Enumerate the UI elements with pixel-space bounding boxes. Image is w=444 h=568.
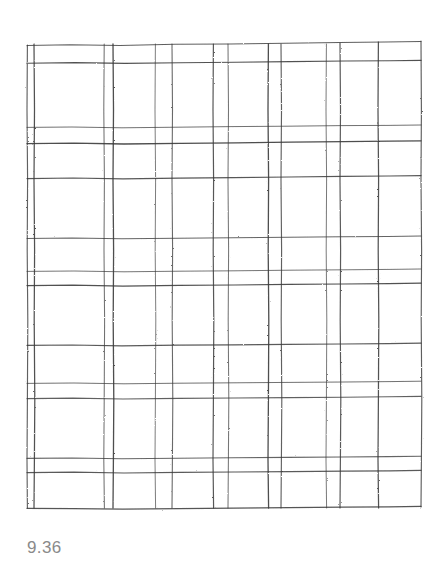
hand-drawn-grid: [0, 0, 444, 568]
figure-root: 9.36: [0, 0, 444, 568]
vline-4: [113, 44, 114, 508]
vline-8: [228, 44, 229, 508]
figure-caption: 9.36: [27, 538, 62, 558]
vline-10: [281, 44, 282, 508]
vline-2: [34, 44, 35, 508]
vline-14: [421, 41, 422, 507]
vline-6: [172, 44, 173, 508]
vline-12: [340, 43, 341, 508]
vline-9: [268, 44, 269, 508]
